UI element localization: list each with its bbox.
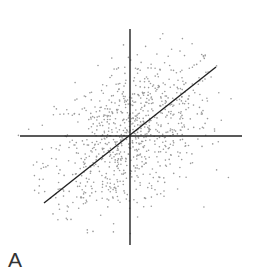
panel-label: A bbox=[8, 248, 22, 272]
scatter-plot bbox=[0, 0, 257, 278]
data-points bbox=[18, 33, 232, 235]
